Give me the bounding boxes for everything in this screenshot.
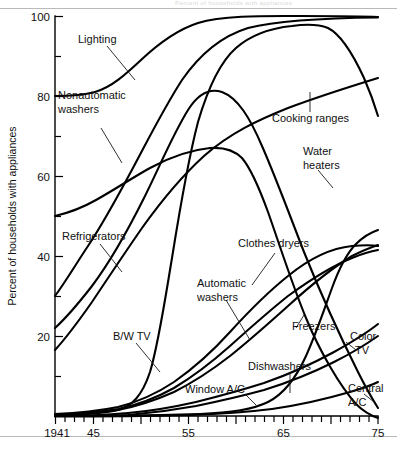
label-refrigerators: Refrigerators: [62, 230, 126, 242]
label-automatic-washers-line1: Automatic: [197, 277, 246, 289]
y-label-60: 60: [37, 171, 50, 183]
y-tick-labels: 100 80 60 40 20: [31, 11, 50, 343]
y-axis-title: Percent of households with appliances: [6, 126, 18, 305]
x-label-1941: 1941: [44, 427, 70, 439]
label-clothes-dryers: Clothes dryers: [238, 237, 309, 249]
label-freezers: Freezers: [292, 320, 336, 332]
curve-window-ac: [55, 336, 378, 416]
label-color-tv-line2: TV: [355, 344, 370, 356]
label-central-ac-line2: A/C: [348, 396, 366, 408]
leader-refrigerators: [100, 244, 122, 272]
label-water-heaters-line2: heaters: [303, 159, 340, 171]
line-chart-plot: 100 80 60 40 20 Percent of households wi…: [0, 0, 397, 449]
leader-window-ac: [245, 394, 256, 405]
label-window-ac: Window A/C: [185, 383, 245, 395]
x-label-65: 65: [277, 427, 290, 439]
curve-nonautomatic-washers: [55, 91, 378, 408]
label-nonautomatic-washers-line2: washers: [57, 103, 99, 115]
y-label-40: 40: [37, 251, 50, 263]
x-label-75: 75: [372, 427, 385, 439]
x-label-45: 45: [87, 427, 100, 439]
label-automatic-washers-line2: washers: [196, 291, 238, 303]
chart-figure: Percent of households with appliances 10…: [0, 0, 397, 449]
leader-nonautomatic-washers: [101, 128, 122, 163]
leader-clothes-dryers: [252, 253, 275, 285]
label-central-ac-line1: Central: [348, 382, 383, 394]
leader-lighting: [107, 46, 135, 80]
label-lighting: Lighting: [78, 33, 117, 45]
y-label-100: 100: [31, 11, 50, 23]
x-tick-labels: 1941 45 55 65 75: [44, 427, 384, 439]
label-cooking-ranges: Cooking ranges: [272, 112, 350, 124]
label-water-heaters-line1: Water: [303, 145, 332, 157]
y-label-80: 80: [37, 91, 50, 103]
label-color-tv-line1: Color: [350, 330, 377, 342]
leader-water-heaters: [318, 170, 333, 188]
y-label-20: 20: [37, 331, 50, 343]
label-dishwashers: Dishwashers: [248, 360, 311, 372]
x-label-55: 55: [182, 427, 195, 439]
series-curves: [55, 16, 378, 418]
label-nonautomatic-washers-line1: Nonautomatic: [58, 89, 126, 101]
label-bw-tv: B/W TV: [113, 330, 151, 342]
